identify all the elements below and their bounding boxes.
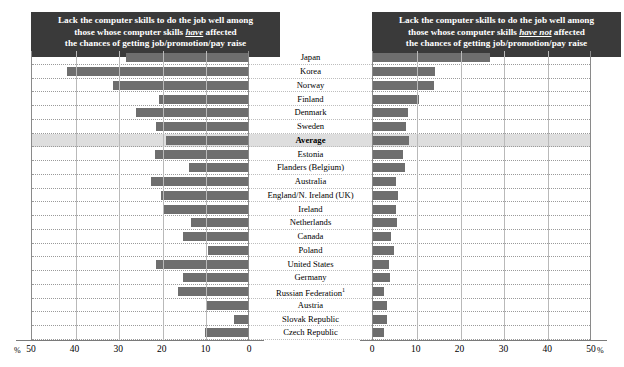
left-tick-50: 50 [19, 344, 43, 354]
country-label: Estonia [298, 150, 324, 159]
gridline-30 [504, 51, 505, 340]
left-bar-chart-plot [31, 51, 249, 340]
bar-right-germany [373, 273, 390, 282]
country-label: Canada [298, 232, 324, 241]
table-row [373, 92, 590, 106]
country-label: Sweden [297, 122, 324, 131]
country-label: Netherlands [290, 218, 332, 227]
bar-left-czech-republic [205, 328, 248, 337]
country-label: Poland [299, 246, 323, 255]
gridline-10 [206, 51, 207, 340]
country-label: Slovak Republic [282, 315, 339, 324]
table-row [373, 79, 590, 93]
row-gridline [249, 339, 372, 340]
footnote-marker: 1 [342, 287, 345, 293]
list-item: Average [249, 134, 372, 148]
table-row [32, 106, 248, 120]
list-item: Poland [249, 244, 372, 258]
bar-left-flanders-belgium- [189, 163, 248, 172]
table-row [32, 147, 248, 161]
table-row [373, 51, 590, 65]
right-tick-20: 20 [448, 344, 472, 354]
table-row [373, 161, 590, 175]
bar-right-japan [373, 53, 490, 62]
table-row [373, 147, 590, 161]
bar-right-norway [373, 81, 434, 90]
left-bar-rows [32, 51, 248, 340]
gridline-20 [461, 51, 462, 340]
gridline-30 [119, 51, 120, 340]
table-row [373, 175, 590, 189]
right-bar-chart-plot [372, 51, 591, 340]
list-item: England/N. Ireland (UK) [249, 189, 372, 203]
bar-left-poland [208, 246, 248, 255]
bar-left-netherlands [191, 218, 248, 227]
table-row [373, 216, 590, 230]
list-item: Finland [249, 92, 372, 106]
list-item: Czech Republic [249, 326, 372, 340]
table-row [373, 244, 590, 258]
list-item: Korea [249, 65, 372, 79]
country-label: Austria [298, 301, 323, 310]
right-title-line2-post: affected [552, 27, 585, 37]
bar-right-canada [373, 232, 391, 241]
bar-left-japan [126, 53, 248, 62]
right-percent-symbol: % [597, 346, 604, 355]
bar-left-sweden [156, 122, 248, 131]
left-title-line1: Lack the computer skills to do the job w… [58, 15, 253, 25]
bar-left-korea [67, 67, 248, 76]
country-label: Average [296, 136, 326, 145]
country-label: Japan [301, 53, 321, 62]
table-row [32, 257, 248, 271]
table-row [373, 326, 590, 340]
right-title-line1: Lack the computer skills to do the job w… [399, 15, 594, 25]
country-label: Russian Federation1 [276, 286, 345, 298]
table-row [32, 51, 248, 65]
left-axis-line [16, 340, 264, 341]
table-row [373, 120, 590, 134]
bar-right-sweden [373, 122, 406, 131]
bar-left-australia [151, 177, 248, 186]
country-label: Australia [295, 177, 327, 186]
bar-left-slovak-republic [234, 315, 248, 324]
right-title-line2-pre: those whose computer skills [408, 27, 519, 37]
bar-left-germany [183, 273, 248, 282]
list-item: Japan [249, 51, 372, 65]
bar-right-korea [373, 67, 435, 76]
table-row [373, 299, 590, 313]
bar-left-finland [159, 95, 248, 104]
list-item: Slovak Republic [249, 312, 372, 326]
gridline-10 [417, 51, 418, 340]
right-title-line3: the chances of getting job/promotion/pay… [406, 38, 587, 48]
list-item: Estonia [249, 147, 372, 161]
list-item: Austria [249, 299, 372, 313]
right-tick-10: 10 [404, 344, 428, 354]
bar-right-austria [373, 301, 387, 310]
bar-right-poland [373, 246, 394, 255]
bar-right-estonia [373, 150, 403, 159]
list-item: Ireland [249, 202, 372, 216]
left-title-line3: the chances of getting job/promotion/pay… [65, 38, 246, 48]
bar-left-denmark [136, 108, 248, 117]
list-item: Canada [249, 230, 372, 244]
table-row [32, 216, 248, 230]
bar-right-czech-republic [373, 328, 384, 337]
bar-right-finland [373, 95, 419, 104]
country-label: Korea [300, 67, 321, 76]
table-row [373, 134, 590, 148]
gridline-20 [163, 51, 164, 340]
country-label: Czech Republic [283, 328, 338, 337]
left-tick-40: 40 [63, 344, 87, 354]
gridline-40 [76, 51, 77, 340]
country-label: Germany [295, 273, 327, 282]
chart-page: Lack the computer skills to do the job w… [0, 0, 624, 367]
table-row [32, 312, 248, 326]
table-row [373, 271, 590, 285]
table-row [373, 189, 590, 203]
table-row [32, 202, 248, 216]
right-title-emphasis: have not [519, 27, 551, 37]
table-row [32, 299, 248, 313]
left-percent-symbol: % [14, 346, 21, 355]
table-row [373, 230, 590, 244]
country-label-column: JapanKoreaNorwayFinlandDenmarkSwedenAver… [249, 51, 372, 340]
